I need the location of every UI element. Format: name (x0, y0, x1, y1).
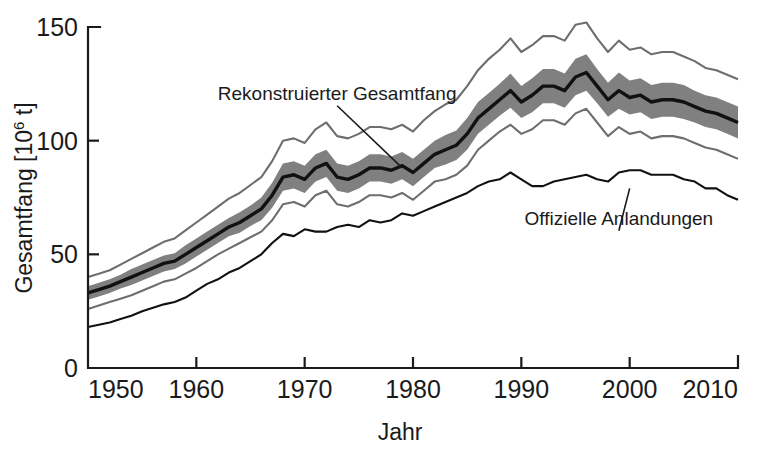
x-tick-labels: 1950196019701980199020002010 (88, 375, 738, 403)
y-axis-title-exponent: 6 (10, 122, 27, 130)
x-tick-label: 1980 (385, 375, 441, 403)
y-tick-label: 0 (64, 354, 78, 382)
annotation-label-2: Offizielle Anlandungen (524, 208, 713, 229)
x-tick-marks (196, 357, 629, 368)
x-tick-label: 2000 (602, 375, 658, 403)
y-axis-title-text: Gesamtfang [106 t] (10, 102, 37, 293)
y-axis-title-base: Gesamtfang [10 (11, 130, 37, 294)
x-tick-label: 2010 (682, 375, 738, 403)
fisheries-catch-chart: 050100150 1950196019701980199020002010 J… (0, 0, 771, 452)
x-tick-label: 1990 (494, 375, 550, 403)
chart-figure: 050100150 1950196019701980199020002010 J… (0, 0, 771, 452)
upper-confidence-line (88, 22, 738, 277)
annotation-label-1: Rekonstruierter Gesamtfang (218, 83, 457, 104)
y-axis-title: Gesamtfang [106 t] (10, 102, 37, 293)
x-tick-label: 1960 (169, 375, 225, 403)
y-tick-labels: 050100150 (36, 13, 78, 382)
y-tick-label: 100 (36, 127, 78, 155)
y-tick-label: 150 (36, 13, 78, 41)
y-axis-title-tail: t] (11, 102, 37, 121)
y-tick-marks (88, 141, 99, 255)
x-axis-title: Jahr (378, 419, 423, 445)
x-tick-label: 1950 (88, 375, 144, 403)
x-tick-label: 1970 (277, 375, 333, 403)
y-tick-label: 50 (50, 240, 78, 268)
